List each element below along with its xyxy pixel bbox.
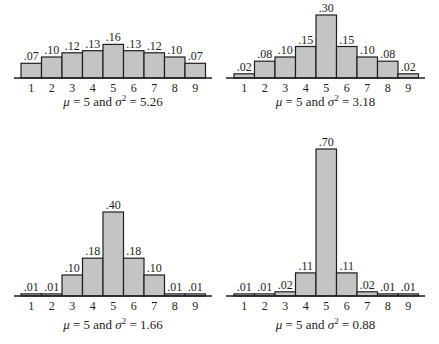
mu-value: = 5 and bbox=[282, 317, 328, 332]
data-label-7: .10 bbox=[360, 43, 375, 57]
data-label-2: .08 bbox=[257, 47, 272, 61]
bar-8 bbox=[378, 61, 399, 78]
x-tick-label: 6 bbox=[131, 81, 137, 95]
bar-5 bbox=[103, 44, 124, 78]
x-tick-label: 3 bbox=[282, 299, 288, 313]
data-label-8: .08 bbox=[380, 47, 395, 61]
bar-7 bbox=[357, 57, 378, 78]
bar-8 bbox=[165, 57, 186, 78]
caption: μ = 5 and σ2 = 3.18 bbox=[275, 93, 376, 109]
x-tick-label: 6 bbox=[344, 299, 350, 313]
x-tick-label: 2 bbox=[262, 81, 268, 95]
x-tick-label: 7 bbox=[364, 299, 370, 313]
bar-7 bbox=[144, 275, 165, 296]
bar-6 bbox=[337, 47, 358, 79]
bar-7 bbox=[144, 53, 165, 78]
variance-value: = 3.18 bbox=[339, 94, 376, 109]
bar-3 bbox=[62, 53, 83, 78]
x-tick-label: 7 bbox=[151, 299, 157, 313]
mu-value: = 5 and bbox=[70, 317, 116, 332]
x-tick-label: 1 bbox=[28, 299, 34, 313]
x-tick-label: 8 bbox=[385, 299, 391, 313]
bar-4 bbox=[296, 47, 317, 79]
bar-3 bbox=[275, 57, 296, 78]
x-tick-label: 8 bbox=[172, 81, 178, 95]
data-label-6: .11 bbox=[339, 259, 354, 273]
bar-2 bbox=[42, 57, 63, 78]
x-tick-label: 4 bbox=[303, 299, 309, 313]
bar-9 bbox=[185, 63, 206, 78]
x-tick-label: 6 bbox=[131, 299, 137, 313]
caption: μ = 5 and σ2 = 1.66 bbox=[62, 316, 163, 332]
data-label-6: .15 bbox=[339, 33, 354, 47]
data-label-2: .10 bbox=[44, 43, 59, 57]
data-label-3: .02 bbox=[278, 278, 293, 292]
x-tick-label: 7 bbox=[364, 81, 370, 95]
data-label-6: .18 bbox=[126, 244, 141, 258]
bar-2 bbox=[255, 61, 276, 78]
data-label-1: .01 bbox=[237, 280, 252, 294]
bar-4 bbox=[296, 273, 317, 296]
bar-5 bbox=[103, 212, 124, 296]
bar-1 bbox=[21, 63, 42, 78]
variance-value: = 5.26 bbox=[126, 94, 163, 109]
histogram-panel-variance-3-18: .021.082.103.154.305.156.107.088.029μ = … bbox=[226, 1, 425, 109]
data-label-7: .12 bbox=[147, 39, 162, 53]
data-label-5: .30 bbox=[319, 1, 334, 15]
data-label-4: .18 bbox=[85, 244, 100, 258]
data-label-7: .10 bbox=[147, 261, 162, 275]
histogram-panel-variance-5-26: .071.102.123.134.165.136.127.108.079μ = … bbox=[14, 30, 212, 109]
x-tick-label: 5 bbox=[110, 299, 116, 313]
x-tick-label: 5 bbox=[110, 81, 116, 95]
data-label-5: .40 bbox=[106, 198, 121, 212]
x-tick-label: 2 bbox=[49, 81, 55, 95]
histogram-panel-variance-0-88: .011.012.023.114.705.116.027.018.019μ = … bbox=[226, 135, 425, 332]
histogram-figure: .071.102.123.134.165.136.127.108.079μ = … bbox=[0, 0, 439, 344]
data-label-9: .02 bbox=[401, 60, 416, 74]
x-tick-label: 3 bbox=[69, 299, 75, 313]
x-tick-label: 9 bbox=[405, 299, 411, 313]
x-tick-label: 9 bbox=[405, 81, 411, 95]
x-tick-label: 9 bbox=[192, 299, 198, 313]
data-label-9: .01 bbox=[188, 280, 203, 294]
x-tick-label: 2 bbox=[49, 299, 55, 313]
x-tick-label: 4 bbox=[90, 299, 96, 313]
x-tick-label: 1 bbox=[28, 81, 34, 95]
bar-5 bbox=[316, 149, 337, 296]
x-tick-label: 5 bbox=[323, 81, 329, 95]
data-label-8: .10 bbox=[167, 43, 182, 57]
x-tick-label: 6 bbox=[344, 81, 350, 95]
data-label-7: .02 bbox=[360, 278, 375, 292]
data-label-4: .13 bbox=[85, 37, 100, 51]
data-label-3: .10 bbox=[278, 43, 293, 57]
caption: μ = 5 and σ2 = 0.88 bbox=[275, 316, 376, 332]
data-label-5: .70 bbox=[319, 135, 334, 149]
x-tick-label: 1 bbox=[241, 299, 247, 313]
x-tick-label: 2 bbox=[262, 299, 268, 313]
x-tick-label: 9 bbox=[192, 81, 198, 95]
x-tick-label: 3 bbox=[282, 81, 288, 95]
x-tick-label: 8 bbox=[172, 299, 178, 313]
data-label-6: .13 bbox=[126, 37, 141, 51]
data-label-9: .07 bbox=[188, 49, 203, 63]
x-tick-label: 4 bbox=[90, 81, 96, 95]
data-label-1: .01 bbox=[24, 280, 39, 294]
bar-5 bbox=[316, 15, 337, 78]
data-label-8: .01 bbox=[167, 280, 182, 294]
x-tick-label: 3 bbox=[69, 81, 75, 95]
data-label-8: .01 bbox=[380, 280, 395, 294]
data-label-9: .01 bbox=[401, 280, 416, 294]
data-label-1: .02 bbox=[237, 60, 252, 74]
data-label-2: .01 bbox=[257, 280, 272, 294]
data-label-2: .01 bbox=[44, 280, 59, 294]
data-label-5: .16 bbox=[106, 30, 121, 44]
data-label-1: .07 bbox=[24, 49, 39, 63]
x-tick-label: 8 bbox=[385, 81, 391, 95]
x-tick-label: 7 bbox=[151, 81, 157, 95]
bar-4 bbox=[83, 258, 104, 296]
bar-4 bbox=[83, 51, 104, 78]
data-label-3: .10 bbox=[65, 261, 80, 275]
x-tick-label: 1 bbox=[241, 81, 247, 95]
variance-value: = 0.88 bbox=[339, 317, 376, 332]
variance-value: = 1.66 bbox=[126, 317, 163, 332]
